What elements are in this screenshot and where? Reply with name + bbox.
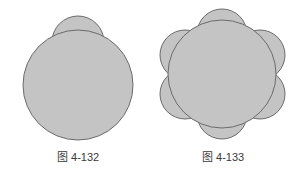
large-circle (168, 20, 276, 128)
figure-4-132 (23, 16, 133, 140)
figure-caption-4-132: 图 4-132 (57, 148, 99, 164)
figure-caption-4-133: 图 4-133 (202, 148, 244, 164)
figure-4-133 (160, 9, 285, 139)
large-circle (23, 30, 133, 140)
figures-canvas (0, 0, 298, 170)
